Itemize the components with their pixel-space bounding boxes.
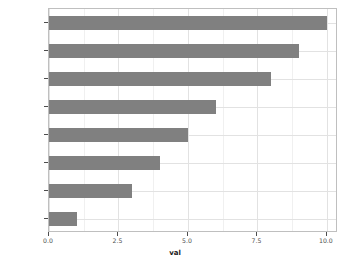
y-tick-mark — [44, 162, 48, 163]
bar — [49, 156, 160, 169]
x-tick-mark — [187, 232, 188, 236]
x-tick-label: 2.5 — [113, 238, 123, 244]
x-tick-label: 0.0 — [43, 238, 53, 244]
bar — [49, 100, 216, 113]
y-tick-mark — [44, 106, 48, 107]
x-tick-mark — [326, 232, 327, 236]
y-tick-mark — [44, 190, 48, 191]
y-tick-mark — [44, 134, 48, 135]
category-gridline — [49, 219, 336, 220]
plot-panel — [48, 8, 337, 232]
gridline — [327, 9, 328, 231]
minor-gridline — [223, 9, 224, 231]
minor-gridline — [292, 9, 293, 231]
y-tick-mark — [44, 22, 48, 23]
y-tick-mark — [44, 78, 48, 79]
x-tick-label: 7.5 — [251, 238, 261, 244]
bar — [49, 128, 188, 141]
y-tick-mark — [44, 218, 48, 219]
x-tick-label: 10.0 — [319, 238, 333, 244]
x-tick-mark — [48, 232, 49, 236]
gridline — [257, 9, 258, 231]
gridline — [188, 9, 189, 231]
bar — [49, 72, 271, 85]
x-tick-mark — [256, 232, 257, 236]
minor-gridline — [153, 9, 154, 231]
x-axis-title: val — [0, 250, 350, 257]
x-tick-mark — [117, 232, 118, 236]
bar — [49, 212, 77, 225]
bar — [49, 44, 299, 57]
y-tick-mark — [44, 50, 48, 51]
bar — [49, 184, 132, 197]
bar — [49, 16, 327, 29]
bar-chart: south-easteastsouthnorth-westsouth-westw… — [0, 0, 350, 267]
x-tick-label: 5.0 — [182, 238, 192, 244]
